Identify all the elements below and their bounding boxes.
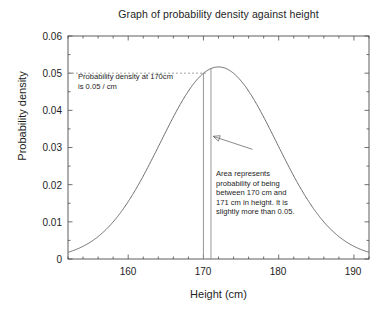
chart-figure: Graph of probability density against hei…: [0, 0, 389, 319]
density-curve: [68, 67, 369, 252]
y-axis-ticks: [68, 36, 369, 259]
x-axis-ticks: [68, 36, 369, 259]
axis-frame: [68, 36, 369, 259]
annotation-arrow-icon: [213, 136, 252, 150]
plot-box-border: [68, 36, 369, 259]
plot-area: [0, 0, 389, 319]
